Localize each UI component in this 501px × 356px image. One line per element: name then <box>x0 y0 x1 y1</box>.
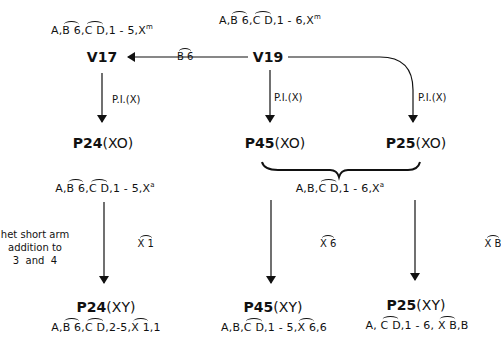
node-suffix: (XY) <box>416 297 445 313</box>
node-p24-xo: P24(XO) <box>73 136 133 150</box>
karyotype-v17: A,B 6,C D,1 - 5,Xm <box>51 25 153 36</box>
node-name: P25 <box>386 135 416 151</box>
edge-label-v19-p45: P.I.(X) <box>274 93 302 103</box>
node-v19: V19 <box>253 50 283 64</box>
node-p45-xo: P45(XO) <box>245 136 305 150</box>
superscript: a <box>150 181 155 189</box>
node-suffix: (XY) <box>273 299 302 315</box>
linked-pair: X 1 <box>131 322 150 333</box>
node-name: P45 <box>245 135 275 151</box>
het-note: het short arm addition to 3 and 4 <box>1 228 69 267</box>
linked-pair: C D <box>85 322 105 333</box>
node-suffix: (XO) <box>416 135 447 151</box>
superscript: m <box>314 13 321 21</box>
linked-pair: C D <box>381 320 401 331</box>
edge-label-v19-p25: P.I.(X) <box>418 93 446 103</box>
karyotype-p25-xy: A, C D,1 - 6, X B,B <box>365 320 468 331</box>
karyotype-text: ,1 - 6,X <box>339 182 380 195</box>
arrow-v19-to-p25xo <box>288 57 413 122</box>
karyotype-text: ,1 - 5, <box>264 321 297 334</box>
karyotype-text: A,B, <box>221 321 244 334</box>
karyotype-text: ,2-5, <box>105 321 131 334</box>
karyotype-text: A, <box>51 24 62 37</box>
note-line: 3 and 4 <box>1 254 69 267</box>
karyotype-text: ,1 - 5,X <box>105 24 146 37</box>
karyotype-text: ,1 - 5,X <box>109 182 150 195</box>
linked-pair: X 6 <box>297 322 316 333</box>
superscript: a <box>380 181 385 189</box>
karyotype-p24-xy: A,B 6,C D,2-5,X 1,1 <box>51 322 161 333</box>
node-name: P45 <box>244 299 274 315</box>
superscript: m <box>146 23 153 31</box>
linked-pair: C D <box>244 322 264 333</box>
karyotype-text: ,1 - 6, <box>401 319 438 332</box>
node-suffix: (XO) <box>275 135 306 151</box>
karyotype-text: A, <box>365 319 380 332</box>
edge-label-p45-step: X 6 <box>320 239 336 249</box>
karyotype-text: A, <box>219 14 230 27</box>
linked-pair: C D <box>319 183 339 194</box>
karyotype-text: A, <box>55 182 66 195</box>
node-name: P24 <box>77 299 107 315</box>
brace <box>262 162 420 177</box>
linked-pair: C D <box>89 183 109 194</box>
node-suffix: (XO) <box>103 135 134 151</box>
node-p45-xy: P45(XY) <box>244 300 303 314</box>
karyotype-text: A,B, <box>296 182 319 195</box>
node-name: P24 <box>73 135 103 151</box>
linked-pair: C D <box>85 25 105 36</box>
node-p25-xy: P25(XY) <box>387 298 446 312</box>
karyotype-text: ,1 <box>150 321 161 334</box>
linked-pair: B 6 <box>67 183 86 194</box>
karyotype-text: ,B <box>457 319 468 332</box>
edge-label-p25-step: X B <box>485 239 501 249</box>
linked-pair: B 6 <box>62 25 81 36</box>
linked-pair: X B <box>438 320 457 331</box>
note-line: het short arm <box>1 228 69 241</box>
edge-label-p24-step: X 1 <box>138 239 154 249</box>
karyotype-v19: A,B 6,C D,1 - 6,Xm <box>219 15 321 26</box>
note-line: addition to <box>1 241 69 254</box>
karyotype-p45-p25-xo: A,B,C D,1 - 6,Xa <box>296 183 385 194</box>
linked-pair: C D <box>253 15 273 26</box>
karyotype-text: A, <box>51 321 62 334</box>
karyotype-p24-xo: A,B 6,C D,1 - 5,Xa <box>55 183 155 194</box>
node-name: P25 <box>387 297 417 313</box>
karyotype-p45-xy: A,B,C D,1 - 5,X 6,6 <box>221 322 327 333</box>
edge-label-v19-v17: B 6 <box>177 52 193 62</box>
node-suffix: (XY) <box>106 299 135 315</box>
linked-pair: B 6 <box>230 15 249 26</box>
node-p24-xy: P24(XY) <box>77 300 136 314</box>
linked-pair: B 6 <box>63 322 82 333</box>
karyotype-text: ,6 <box>316 321 327 334</box>
edge-label-v17-p24: P.I.(X) <box>112 95 140 105</box>
node-v17: V17 <box>87 50 117 64</box>
karyotype-text: ,1 - 6,X <box>273 14 314 27</box>
node-p25-xo: P25(XO) <box>386 136 446 150</box>
